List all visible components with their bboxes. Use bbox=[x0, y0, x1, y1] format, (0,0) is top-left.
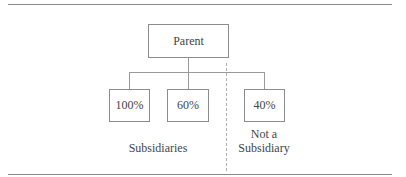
not-subsidiary-label: Not a Subsidiary bbox=[232, 127, 296, 155]
child-connector-3 bbox=[264, 72, 265, 89]
parent-connector bbox=[188, 58, 189, 72]
child-connector-1 bbox=[129, 72, 130, 89]
subsidiaries-text: Subsidiaries bbox=[129, 141, 188, 155]
top-rule bbox=[8, 4, 392, 5]
subsidiaries-label: Subsidiaries bbox=[118, 141, 198, 155]
parent-label: Parent bbox=[173, 34, 204, 49]
child-label: 60% bbox=[177, 98, 199, 113]
child-box-60: 60% bbox=[167, 89, 209, 122]
divider-dashed-line bbox=[226, 63, 227, 171]
not-subsidiary-line1: Not a bbox=[232, 127, 296, 141]
child-box-40: 40% bbox=[244, 89, 285, 122]
not-subsidiary-line2: Subsidiary bbox=[232, 141, 296, 155]
child-label: 40% bbox=[254, 98, 276, 113]
child-connector-2 bbox=[188, 72, 189, 89]
parent-box: Parent bbox=[148, 24, 229, 58]
bottom-rule bbox=[8, 174, 392, 175]
child-box-100: 100% bbox=[109, 89, 150, 122]
child-label: 100% bbox=[116, 98, 144, 113]
horizontal-connector bbox=[129, 72, 265, 73]
